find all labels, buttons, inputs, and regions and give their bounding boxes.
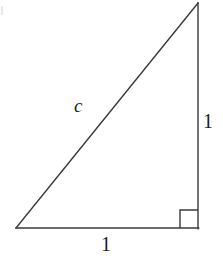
- right-triangle-figure: [0, 0, 223, 258]
- triangle-outline: [16, 3, 199, 229]
- right-angle-marker-icon: [180, 210, 198, 228]
- hypotenuse-label: c: [74, 96, 82, 115]
- vertical-leg-label: 1: [203, 111, 213, 131]
- figure-canvas: c 1 1: [0, 0, 223, 258]
- scan-artifact-speck: [1, 6, 3, 15]
- hypotenuse-line: [16, 3, 198, 228]
- horizontal-leg-label: 1: [101, 234, 111, 254]
